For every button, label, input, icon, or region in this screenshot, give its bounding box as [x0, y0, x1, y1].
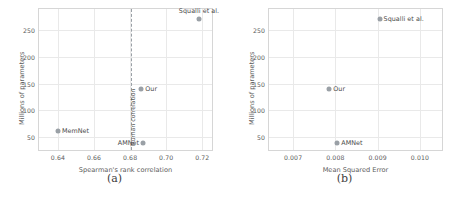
data-point — [55, 128, 60, 133]
gridline-horizontal — [39, 30, 212, 31]
plot-area-a: 501001502002500.640.660.680.700.72Human … — [38, 8, 213, 151]
gridline-horizontal — [39, 110, 212, 111]
x-axis-tick-label: 0.010 — [411, 154, 429, 161]
y-axis-tick-label: 50 — [257, 134, 265, 141]
data-point-label: AMNet — [118, 139, 139, 147]
plot-area-b: 501001502002500.0070.0080.0090.010AMNetO… — [268, 8, 443, 151]
data-point-label: MemNet — [62, 127, 89, 135]
x-axis-tick-label: 0.68 — [123, 154, 137, 161]
x-axis-tick-label: 0.009 — [369, 154, 387, 161]
gridline-vertical — [166, 9, 167, 150]
x-axis-tick-label: 0.72 — [195, 154, 209, 161]
y-axis-tick-label: 50 — [27, 134, 35, 141]
subcaption-b: (b) — [230, 172, 459, 185]
gridline-vertical — [293, 9, 294, 150]
data-point — [377, 16, 382, 21]
data-point — [197, 16, 202, 21]
data-point — [141, 140, 146, 145]
gridline-horizontal — [269, 110, 442, 111]
y-axis-title-a: Millions of parameters — [18, 52, 26, 125]
gridline-horizontal — [269, 57, 442, 58]
x-axis-tick-label: 0.64 — [51, 154, 65, 161]
data-point-label: Squalli et al. — [179, 7, 219, 15]
x-axis-tick-label: 0.008 — [326, 154, 344, 161]
data-point-label: Our — [145, 85, 157, 93]
gridline-vertical — [94, 9, 95, 150]
gridline-horizontal — [39, 84, 212, 85]
gridline-vertical — [420, 9, 421, 150]
data-point-label: Our — [333, 85, 345, 93]
x-axis-tick-label: 0.70 — [159, 154, 173, 161]
y-axis-title-b: Millions of parameters — [248, 52, 256, 125]
subcaption-a: (a) — [0, 172, 229, 185]
gridline-horizontal — [269, 30, 442, 31]
gridline-horizontal — [39, 57, 212, 58]
y-axis-tick-label: 250 — [253, 27, 265, 34]
human-correlation-line-label: Human correlation — [129, 89, 136, 146]
y-axis-tick-label: 250 — [23, 27, 35, 34]
gridline-horizontal — [39, 137, 212, 138]
data-point — [327, 87, 332, 92]
panel-b: 501001502002500.0070.0080.0090.010AMNetO… — [230, 0, 459, 202]
x-axis-tick-label: 0.66 — [87, 154, 101, 161]
gridline-horizontal — [269, 84, 442, 85]
x-axis-tick-label: 0.007 — [284, 154, 302, 161]
gridline-vertical — [378, 9, 379, 150]
gridline-vertical — [335, 9, 336, 150]
gridline-horizontal — [269, 137, 442, 138]
data-point — [139, 87, 144, 92]
gridline-vertical — [202, 9, 203, 150]
panel-a: 501001502002500.640.660.680.700.72Human … — [0, 0, 229, 202]
data-point-label: AMNet — [341, 139, 362, 147]
data-point — [335, 140, 340, 145]
data-point-label: Squalli et al. — [384, 15, 424, 23]
figure-container: 501001502002500.640.660.680.700.72Human … — [0, 0, 459, 202]
